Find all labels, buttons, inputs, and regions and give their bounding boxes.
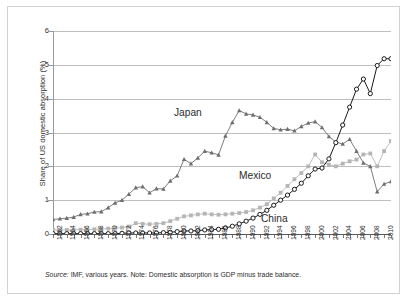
y-tick-label-4: 4 (27, 94, 49, 103)
x-tick-label-1978: 1978 (166, 225, 173, 240)
x-tick-mark-2010 (384, 235, 385, 238)
series-label-mexico: Mexico (239, 170, 271, 181)
x-tick-mark-2008 (370, 235, 371, 238)
x-tick-label-1970: 1970 (111, 225, 118, 240)
x-tick-mark-1968 (94, 235, 95, 238)
y-tick-label-5: 5 (27, 60, 49, 69)
x-tick-label-1968: 1968 (97, 225, 104, 240)
x-tick-label-2002: 2002 (332, 225, 339, 240)
x-tick-mark-1964 (67, 235, 68, 238)
x-tick-mark-1992 (260, 235, 261, 238)
x-tick-mark-1970 (108, 235, 109, 238)
x-tick-label-1998: 1998 (304, 225, 311, 240)
x-tick-label-1988: 1988 (235, 225, 242, 240)
x-tick-mark-1998 (301, 235, 302, 238)
x-tick-mark-1986 (219, 235, 220, 238)
x-tick-mark-1978 (163, 235, 164, 238)
x-tick-mark-2004 (343, 235, 344, 238)
x-tick-label-2006: 2006 (359, 225, 366, 240)
x-tick-mark-1972 (122, 235, 123, 238)
x-tick-label-1986: 1986 (221, 225, 228, 240)
y-tick-label-3: 3 (27, 128, 49, 137)
x-tick-label-1994: 1994 (276, 225, 283, 240)
x-tick-mark-1980 (177, 235, 178, 238)
x-tick-mark-2006 (357, 235, 358, 238)
series-mexico (53, 139, 391, 232)
source-note-label: Source: (45, 271, 69, 278)
x-tick-mark-1994 (274, 235, 275, 238)
y-tick-label-1: 1 (27, 195, 49, 204)
x-tick-label-1980: 1980 (180, 225, 187, 240)
x-tick-label-1962: 1962 (56, 225, 63, 240)
x-tick-label-1974: 1974 (138, 225, 145, 240)
x-tick-label-1984: 1984 (207, 225, 214, 240)
series-label-japan: Japan (174, 107, 202, 118)
x-tick-label-2004: 2004 (345, 225, 352, 240)
y-tick-label-6: 6 (27, 26, 49, 35)
x-tick-mark-1996 (288, 235, 289, 238)
x-tick-label-1976: 1976 (152, 225, 159, 240)
source-note: Source: IMF, various years. Note: Domest… (45, 271, 395, 278)
x-tick-label-1982: 1982 (194, 225, 201, 240)
source-note-text: IMF, various years. Note: Domestic absor… (69, 271, 301, 278)
x-tick-mark-1974 (136, 235, 137, 238)
x-tick-label-2010: 2010 (387, 225, 394, 240)
x-tick-mark-1984 (205, 235, 206, 238)
x-tick-mark-1990 (246, 235, 247, 238)
x-tick-mark-1962 (53, 235, 54, 238)
x-tick-label-2008: 2008 (373, 225, 380, 240)
y-tick-label-2: 2 (27, 161, 49, 170)
series-label-china: China (261, 213, 288, 224)
series-plot (53, 31, 391, 235)
x-tick-label-2000: 2000 (318, 225, 325, 240)
x-tick-label-1990: 1990 (249, 225, 256, 240)
y-tick-label-0: 0 (27, 229, 49, 238)
x-tick-mark-2000 (315, 235, 316, 238)
x-tick-label-1964: 1964 (69, 225, 76, 240)
chart-area: Share of US domestic absorption (%) 0123… (8, 7, 401, 295)
x-tick-mark-2002 (329, 235, 330, 238)
x-tick-mark-1988 (232, 235, 233, 238)
x-tick-mark-1966 (81, 235, 82, 238)
x-tick-label-1966: 1966 (83, 225, 90, 240)
x-tick-label-1992: 1992 (263, 225, 270, 240)
x-tick-label-1972: 1972 (125, 225, 132, 240)
figure-frame: Share of US domestic absorption (%) 0123… (7, 6, 400, 294)
x-tick-mark-1982 (191, 235, 192, 238)
x-tick-label-1996: 1996 (290, 225, 297, 240)
x-tick-mark-1976 (150, 235, 151, 238)
